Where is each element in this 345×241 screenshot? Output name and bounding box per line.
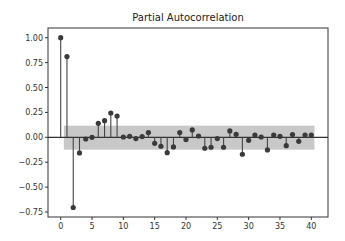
stem-lag-35 [277,134,282,139]
y-tick-label: −0.25 [18,158,43,167]
stem-lag-11 [127,134,132,139]
pacf-chart: Partial Autocorrelation 1.000.750.500.25… [0,0,345,241]
stem-lag-0 [58,35,63,137]
x-tick-label: 40 [306,222,316,231]
stem-lag-5 [89,135,94,140]
y-tick-label: 1.00 [25,34,43,43]
y-tick-label: 0.00 [25,133,43,142]
stem-lag-4 [83,136,88,141]
x-tick-label: 10 [118,222,128,231]
y-tick-label: 0.75 [25,59,43,68]
y-tick-label: −0.75 [18,208,43,217]
x-tick-label: 30 [244,222,254,231]
stem-lag-25 [215,136,220,141]
stem-lag-12 [133,136,138,141]
y-tick-label: −0.50 [18,183,43,192]
stem-lag-39 [302,132,307,137]
stem-lag-31 [252,132,257,137]
x-tick-label: 0 [58,222,63,231]
stem-lag-40 [309,132,314,137]
stems [58,35,314,210]
plot-frame [48,28,328,217]
x-axis: 0510152025303540 [58,217,316,231]
stem-lag-32 [259,134,264,139]
stem-lag-22 [196,133,201,138]
x-tick-label: 35 [275,222,285,231]
stem-lag-13 [140,134,145,139]
x-tick-label: 20 [181,222,191,231]
stem-lag-34 [271,132,276,137]
y-tick-label: 0.50 [25,84,43,93]
x-tick-label: 15 [150,222,160,231]
stem-lag-20 [183,137,188,142]
x-tick-label: 25 [212,222,222,231]
y-axis: 1.000.750.500.250.00−0.25−0.50−0.75 [18,34,48,217]
chart-title: Partial Autocorrelation [132,12,243,23]
stem-lag-1 [64,54,69,137]
y-tick-label: 0.25 [25,108,43,117]
stem-lag-10 [121,134,126,139]
x-tick-label: 5 [89,222,94,231]
